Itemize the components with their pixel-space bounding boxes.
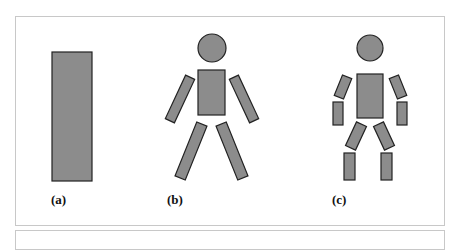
figure-b-torso xyxy=(198,70,225,115)
figure-label-c: (c) xyxy=(332,192,346,208)
figure-c-right-shin xyxy=(381,153,392,180)
figure-c-torso xyxy=(357,74,383,118)
figure-b-right-arm xyxy=(229,75,258,123)
figure-c-left-lower-arm xyxy=(333,102,343,125)
figure-b-head xyxy=(198,34,226,62)
figure-b-left-arm xyxy=(165,75,194,123)
figure-c-right-upper-arm xyxy=(389,75,407,99)
figure-b-right-leg xyxy=(216,122,248,180)
figure-c-person xyxy=(333,35,407,180)
figure-label-b: (b) xyxy=(167,192,183,208)
figure-c-head xyxy=(357,35,383,61)
figure-c-right-lower-arm xyxy=(397,102,407,125)
figure-b-person xyxy=(165,34,258,180)
figure-c-left-thigh xyxy=(346,122,367,150)
figure-a-rectangle xyxy=(52,52,92,181)
figure-label-a: (a) xyxy=(51,192,66,208)
figure-b-left-leg xyxy=(175,122,207,180)
figure-c-right-thigh xyxy=(374,122,395,150)
figure-c-left-shin xyxy=(344,153,355,180)
figure-c-left-upper-arm xyxy=(334,75,352,99)
